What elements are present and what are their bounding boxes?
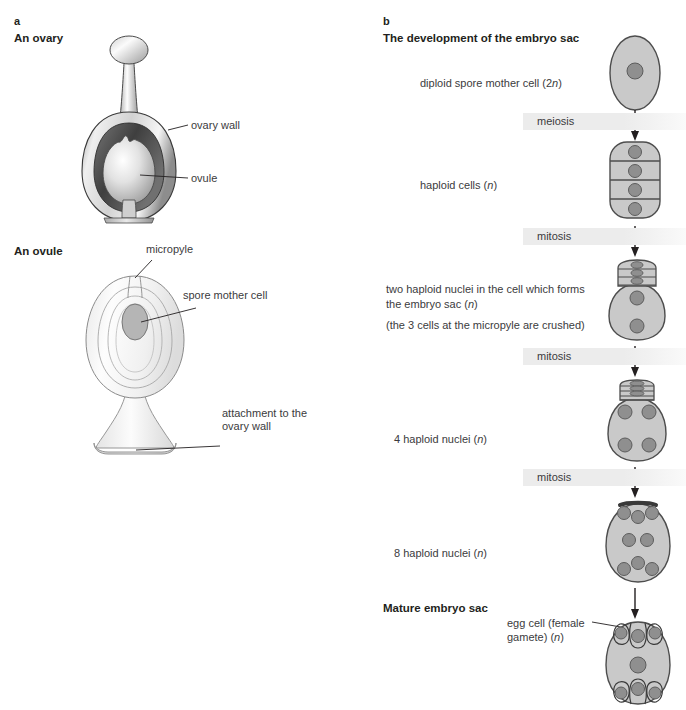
nucleus xyxy=(649,687,661,699)
stage-cell-eight-haploid-nuclei xyxy=(600,498,676,588)
label-ovary-wall: ovary wall xyxy=(191,119,240,133)
egg-cell-nucleus xyxy=(632,630,645,643)
nucleus xyxy=(629,184,642,197)
nucleus xyxy=(615,687,627,699)
nucleus xyxy=(629,165,642,178)
transition-label-mitosis-3: mitosis xyxy=(537,471,571,484)
nucleus xyxy=(631,278,643,285)
label-micropyle: micropyle xyxy=(146,243,193,257)
ovary-diagram xyxy=(80,30,280,225)
nucleus xyxy=(630,291,644,305)
figure-root: a An ovary xyxy=(0,0,686,710)
nucleus xyxy=(630,386,644,391)
label-ovule: ovule xyxy=(191,172,217,186)
nucleus xyxy=(632,557,645,570)
nucleus xyxy=(630,381,644,386)
label-attachment-line1: attachment to the xyxy=(222,407,307,421)
nucleus xyxy=(631,262,643,269)
nucleus xyxy=(618,405,632,419)
mature-embryo-sac-title: Mature embryo sac xyxy=(383,601,488,615)
micropyle-leader xyxy=(135,260,152,278)
nucleus xyxy=(618,563,631,576)
nucleus xyxy=(618,507,631,520)
panel-b-title: The development of the embryo sac xyxy=(383,31,579,45)
ovary-base xyxy=(104,218,154,223)
nucleus xyxy=(646,507,659,520)
panel-b-letter: b xyxy=(383,15,390,28)
ovary-stigma xyxy=(110,36,148,64)
polar-nucleus xyxy=(630,657,646,673)
label-egg-cell-line2: gamete) (n) xyxy=(507,631,564,645)
arrow-mature-embryo-sac xyxy=(628,588,642,620)
nucleus xyxy=(642,405,656,419)
nucleus xyxy=(649,627,661,639)
label-egg-cell-line1: egg cell (female xyxy=(507,617,585,631)
nucleus xyxy=(618,438,632,452)
stage-label-eight-haploid-nuclei: 8 haploid nuclei (n) xyxy=(394,546,487,561)
panel-a-letter: a xyxy=(14,15,20,28)
nucleus xyxy=(630,391,644,396)
panel-a-subtitle: An ovule xyxy=(14,244,63,258)
transition-label-meiosis: meiosis xyxy=(537,115,574,128)
ovary-style xyxy=(120,63,138,118)
embryo-sac-body xyxy=(608,398,666,461)
nucleus xyxy=(629,146,642,159)
crushed-cells-cap xyxy=(620,503,656,505)
nucleus xyxy=(641,534,654,547)
stage-label-two-haploid-nuclei: two haploid nuclei in the cell which for… xyxy=(386,282,601,333)
stage-cell-two-haploid-nuclei xyxy=(602,258,672,342)
nucleus xyxy=(632,511,645,524)
nucleus xyxy=(632,683,645,696)
stage-cell-haploid-cells xyxy=(604,140,666,220)
transition-label-mitosis-2: mitosis xyxy=(537,350,571,363)
label-spore-mother-cell: spore mother cell xyxy=(183,289,267,303)
nucleus xyxy=(615,627,627,639)
nucleus xyxy=(629,203,642,216)
label-attachment-line2: ovary wall xyxy=(222,420,271,434)
nucleus xyxy=(630,319,644,333)
transition-label-mitosis-1: mitosis xyxy=(537,230,571,243)
ovary-wall-leader xyxy=(168,125,188,130)
nucleus xyxy=(623,534,636,547)
stage-cell-diploid-spore-mother-cell xyxy=(604,34,666,112)
stage-cell-mature-embryo-sac xyxy=(598,618,678,710)
nucleus xyxy=(627,63,643,79)
stage-label-diploid-spore-mother-cell: diploid spore mother cell (2n) xyxy=(420,76,562,91)
panel-a-title: An ovary xyxy=(14,31,63,45)
nucleus xyxy=(631,270,643,277)
spore-mother-cell-shape xyxy=(122,304,148,340)
stage-label-haploid-cells: haploid cells (n) xyxy=(420,178,497,193)
stage-cell-four-haploid-nuclei xyxy=(601,378,673,464)
ovule-funicle xyxy=(122,200,136,218)
nucleus xyxy=(642,438,656,452)
nucleus xyxy=(646,563,659,576)
stage-label-four-haploid-nuclei: 4 haploid nuclei (n) xyxy=(394,432,487,447)
